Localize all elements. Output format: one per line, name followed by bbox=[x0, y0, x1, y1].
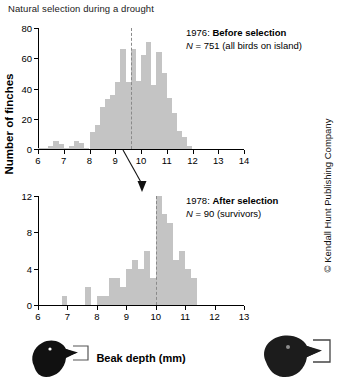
x-axis-tick-label: 12 bbox=[209, 311, 220, 322]
histogram-bar bbox=[187, 146, 192, 149]
annotation-1978-year: 1978: bbox=[186, 195, 210, 206]
x-axis-tick-label: 6 bbox=[35, 155, 40, 166]
histogram-bar bbox=[85, 287, 91, 305]
y-axis-tick-label: 80 bbox=[21, 23, 32, 34]
x-axis-tick-label: 13 bbox=[213, 155, 224, 166]
x-axis-tick bbox=[244, 306, 245, 310]
x-axis-tick bbox=[97, 306, 98, 310]
x-axis-tick bbox=[38, 150, 39, 154]
y-axis-tick-label: 40 bbox=[21, 83, 32, 94]
histogram-bar bbox=[191, 278, 197, 305]
x-axis-tick-label: 12 bbox=[187, 155, 198, 166]
annotation-1976-condition: Before selection bbox=[212, 27, 286, 38]
x-axis-tick bbox=[90, 150, 91, 154]
x-axis-tick-label: 13 bbox=[239, 311, 250, 322]
copyright-notice: © Kendall Hunt Publishing Company bbox=[322, 106, 333, 286]
x-axis-tick bbox=[244, 150, 245, 154]
large-finch-head-icon bbox=[258, 332, 334, 382]
y-axis-tick-label: 8 bbox=[27, 227, 32, 238]
y-axis-tick-label: 12 bbox=[21, 191, 32, 202]
annotation-1978-condition: After selection bbox=[212, 195, 278, 206]
y-axis-tick-label: 0 bbox=[27, 144, 32, 155]
y-axis-tick bbox=[34, 28, 38, 29]
y-axis-tick bbox=[34, 58, 38, 59]
natural-selection-figure: Natural selection during a drought 02040… bbox=[0, 0, 355, 386]
y-axis-tick bbox=[34, 196, 38, 197]
y-axis-tick-label: 4 bbox=[27, 263, 32, 274]
y-axis-tick bbox=[34, 89, 38, 90]
x-axis-tick bbox=[218, 150, 219, 154]
x-axis-tick bbox=[167, 150, 168, 154]
x-axis-tick-label: 8 bbox=[87, 155, 92, 166]
annotation-1976-n-symbol: N bbox=[186, 40, 193, 51]
histogram-bar bbox=[62, 296, 68, 305]
x-axis-tick-label: 9 bbox=[124, 311, 129, 322]
y-axis-tick-label: 0 bbox=[27, 300, 32, 311]
y-axis-tick bbox=[34, 119, 38, 120]
x-axis-tick bbox=[38, 306, 39, 310]
x-axis-tick bbox=[215, 306, 216, 310]
x-axis-tick bbox=[185, 306, 186, 310]
y-axis-label: Number of finches bbox=[3, 49, 15, 199]
annotation-1976: 1976: Before selection N = 751 (all bird… bbox=[186, 26, 302, 52]
x-axis-tick bbox=[115, 150, 116, 154]
x-axis-tick-label: 6 bbox=[35, 311, 40, 322]
y-axis-1976 bbox=[38, 28, 39, 150]
x-axis-tick-label: 10 bbox=[150, 311, 161, 322]
y-axis-1978 bbox=[38, 196, 39, 306]
downward-arrow-icon bbox=[120, 148, 160, 194]
x-axis-tick-label: 7 bbox=[65, 311, 70, 322]
panel-1978-after-selection: 04812678910111213 1978: After selection … bbox=[0, 188, 310, 328]
x-axis-tick-label: 9 bbox=[113, 155, 118, 166]
small-finch-head-icon bbox=[24, 336, 102, 382]
annotation-1976-year: 1976: bbox=[186, 27, 210, 38]
annotation-1978: 1978: After selection N = 90 (survivors) bbox=[186, 194, 278, 220]
mean-dashed-line bbox=[131, 28, 132, 149]
y-axis-tick bbox=[34, 232, 38, 233]
annotation-1976-n-text: = 751 (all birds on island) bbox=[196, 40, 302, 51]
x-axis-tick bbox=[64, 150, 65, 154]
x-axis-tick-label: 7 bbox=[61, 155, 66, 166]
x-axis-tick bbox=[67, 306, 68, 310]
mean-dashed-line bbox=[156, 196, 157, 305]
annotation-1978-n-symbol: N bbox=[186, 208, 193, 219]
panel-1976-before-selection: 02040608067891011121314 1976: Before sel… bbox=[0, 22, 310, 167]
figure-title: Natural selection during a drought bbox=[8, 3, 154, 14]
y-axis-tick bbox=[34, 269, 38, 270]
annotation-1978-n-text: = 90 (survivors) bbox=[196, 208, 262, 219]
x-axis-tick-label: 8 bbox=[94, 311, 99, 322]
y-axis-tick-label: 60 bbox=[21, 53, 32, 64]
y-axis-tick-label: 20 bbox=[21, 113, 32, 124]
x-axis-tick bbox=[126, 306, 127, 310]
x-axis-tick bbox=[156, 306, 157, 310]
x-axis-tick-label: 11 bbox=[180, 311, 190, 322]
x-axis-tick bbox=[193, 150, 194, 154]
x-axis-1978 bbox=[38, 305, 244, 306]
x-axis-tick-label: 11 bbox=[162, 155, 172, 166]
x-axis-tick-label: 14 bbox=[239, 155, 250, 166]
